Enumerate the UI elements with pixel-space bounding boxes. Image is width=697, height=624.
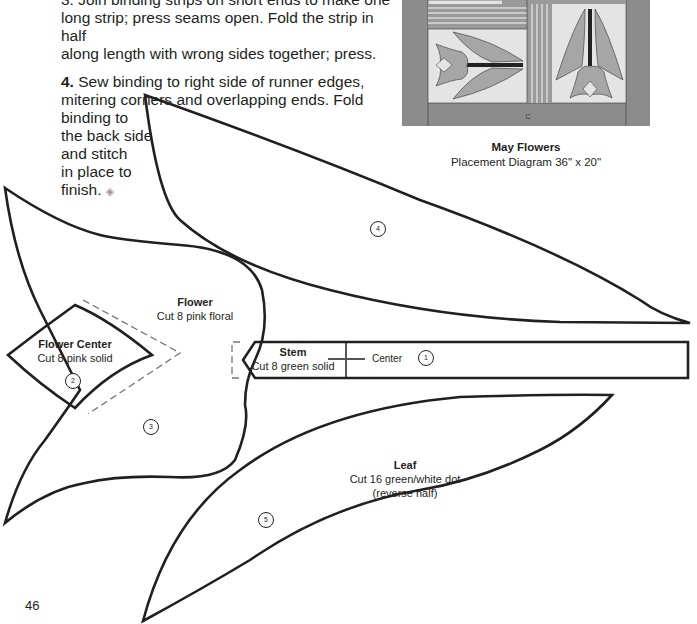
flower-name: Flower [140, 295, 250, 309]
stem-seam-line [232, 342, 240, 378]
pattern-pieces [0, 0, 697, 624]
flower-center-name: Flower Center [20, 337, 130, 351]
stem-name: Stem [248, 345, 338, 359]
flower-cut: Cut 8 pink floral [140, 309, 250, 323]
piece-number-1: 1 [418, 350, 434, 366]
piece-number-5: 5 [258, 512, 274, 528]
stem-label: Stem Cut 8 green solid [248, 345, 338, 373]
flower-center-label: Flower Center Cut 8 pink solid [20, 337, 130, 365]
leaf-note: (reverse half) [340, 486, 470, 500]
leaf-name: Leaf [340, 458, 470, 472]
stem-cut: Cut 8 green solid [248, 359, 338, 373]
page-number: 46 [25, 598, 39, 613]
flower-label: Flower Cut 8 pink floral [140, 295, 250, 323]
piece-number-4: 4 [370, 221, 386, 237]
leaf-4-outline [145, 95, 690, 323]
flower-center-cut: Cut 8 pink solid [20, 351, 130, 365]
leaf-label: Leaf Cut 16 green/white dot (reverse hal… [340, 458, 470, 500]
piece-number-2: 2 [65, 373, 81, 389]
leaf-5-outline [143, 395, 612, 621]
stem-center-marker: Center [372, 353, 402, 364]
leaf-cut: Cut 16 green/white dot [340, 472, 470, 486]
piece-number-3: 3 [143, 419, 159, 435]
